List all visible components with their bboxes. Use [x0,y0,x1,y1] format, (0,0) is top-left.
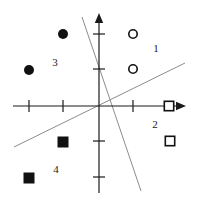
data-point-filled-square-0 [58,137,69,148]
quadrant-label-1: 1 [153,43,159,54]
data-point-open-circle-0 [129,30,137,38]
data-point-filled-square-1 [24,173,35,184]
axes-group [13,13,186,193]
data-point-filled-circle-0 [24,65,34,75]
data-point-open-square-1 [165,136,174,145]
quadrant-label-4: 4 [53,164,59,175]
quadrant-label-2: 2 [152,119,158,130]
x-axis-arrowhead [176,102,186,110]
plot-canvas [0,0,200,203]
data-point-open-circle-1 [129,65,137,73]
steep-descending-boundary [82,17,141,191]
quadrant-label-3: 3 [52,57,58,68]
scatter-plot-figure: 1234 [0,0,200,203]
data-point-filled-circle-1 [58,29,68,39]
y-axis-arrowhead [95,13,103,23]
data-point-open-square-0 [164,101,173,110]
